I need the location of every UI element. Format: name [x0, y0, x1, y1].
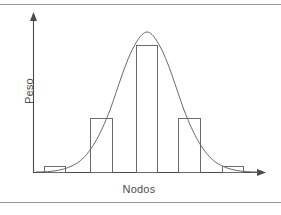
figure-container: Peso Nodos: [0, 0, 281, 215]
histogram-normal-curve-chart: Peso Nodos: [0, 0, 281, 215]
x-axis-label: Nodos: [123, 183, 156, 195]
y-axis-label: Peso: [23, 78, 35, 104]
